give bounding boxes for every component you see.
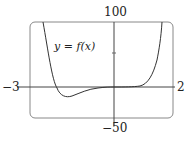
x-max-label: 2	[177, 81, 185, 93]
function-label: y = f(x)	[54, 40, 95, 53]
x-min-label: −3	[2, 81, 20, 93]
y-max-label: 100	[104, 6, 127, 18]
y-min-label: −50	[102, 122, 127, 134]
function-curve	[43, 22, 162, 97]
plot-area	[0, 0, 191, 142]
